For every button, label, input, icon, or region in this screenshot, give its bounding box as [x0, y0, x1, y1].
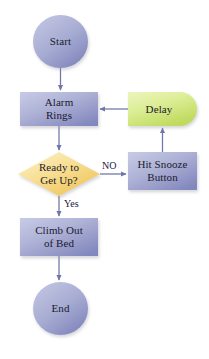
node-alarm-rings[interactable] — [20, 92, 98, 126]
node-climb-out-of-bed[interactable] — [20, 218, 98, 256]
node-delay[interactable] — [128, 92, 197, 126]
caption-text — [0, 345, 209, 359]
node-start[interactable] — [33, 15, 88, 68]
node-hit-snooze-button[interactable] — [128, 152, 197, 190]
node-end[interactable] — [33, 282, 88, 335]
flowchart-diagram: Start Alarm Rings Delay Ready to Get Up?… — [0, 0, 209, 359]
node-ready-to-get-up[interactable] — [18, 152, 100, 196]
